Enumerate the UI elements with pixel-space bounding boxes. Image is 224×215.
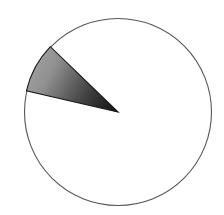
- pie-chart-canvas: [0, 0, 224, 215]
- pie-chart-figure: Circle outlined in thin gray with a sing…: [0, 0, 224, 215]
